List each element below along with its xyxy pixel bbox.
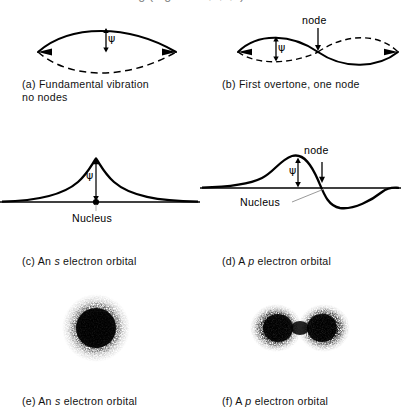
- cloud-waist: [291, 321, 309, 335]
- nucleus-leader-line: [292, 189, 324, 202]
- caption-d: (d) A p electron orbital: [222, 242, 331, 268]
- panel-d-p-orbital-wavefunction: ψ node Nucleus: [200, 132, 401, 212]
- caption-f-prefix: (f) A: [222, 395, 245, 407]
- caption-e-suffix: electron orbital: [61, 395, 138, 407]
- nucleus-label: Nucleus: [72, 212, 112, 224]
- s-electron-density-cloud: [0, 282, 200, 374]
- caption-c-prefix: (c) An: [22, 255, 54, 267]
- p-electron-density-cloud: [200, 282, 401, 374]
- psi-label: ψ: [108, 33, 115, 44]
- panel-e-s-electron-cloud: [0, 282, 200, 374]
- cloud-stipple-overlay: [69, 301, 123, 355]
- caption-d-prefix: (d) A: [222, 255, 248, 267]
- s-wavefunction-plot: [0, 132, 200, 212]
- amplitude-arrow-head-down: [103, 48, 108, 53]
- amplitude-arrow-head-down: [273, 57, 278, 62]
- caption-b: (b) First overtone, one node: [222, 78, 360, 91]
- caption-f-suffix: electron orbital: [251, 395, 328, 407]
- amplitude-arrow-head-down: [295, 182, 301, 187]
- caption-d-suffix: electron orbital: [254, 255, 331, 267]
- caption-e-prefix: (e) An: [22, 395, 55, 407]
- cut-off-running-text: and vibrations of a string (Fig. 5-3 a,b…: [0, 0, 401, 9]
- string-right-tip: [162, 49, 176, 56]
- node-label: node: [304, 144, 329, 156]
- panel-f-p-electron-cloud: [200, 282, 401, 374]
- string-fundamental-diagram: [0, 14, 200, 76]
- caption-c-suffix: electron orbital: [60, 255, 137, 267]
- psi-curve: [2, 159, 198, 202]
- nucleus-dot: [93, 199, 99, 205]
- caption-c: (c) An s electron orbital: [22, 242, 137, 268]
- panel-a-fundamental-vibration: ψ: [0, 14, 200, 76]
- psi-label: ψ: [278, 42, 285, 53]
- caption-f: (f) A p electron orbital: [222, 382, 328, 408]
- panel-c-s-orbital-wavefunction: ψ Nucleus: [0, 132, 200, 212]
- psi-label: ψ: [86, 170, 93, 181]
- panel-b-first-overtone: ψ node: [200, 14, 401, 76]
- node-label: node: [302, 14, 327, 26]
- p-wavefunction-plot: [200, 132, 401, 212]
- nucleus-label: Nucleus: [240, 196, 280, 208]
- psi-curve: [202, 155, 399, 208]
- caption-a: (a) Fundamental vibration no nodes: [22, 78, 149, 104]
- caption-e: (e) An s electron orbital: [22, 382, 137, 408]
- string-overtone-diagram: [200, 14, 401, 76]
- psi-label: ψ: [289, 165, 296, 176]
- amplitude-arrow-head-up: [295, 158, 301, 163]
- string-dashed-curve: [38, 52, 176, 73]
